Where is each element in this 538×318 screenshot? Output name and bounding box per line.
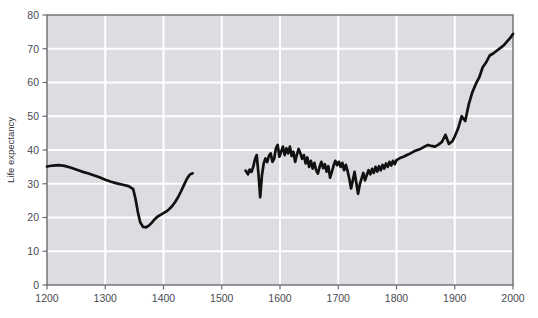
y-axis-title-group: Life expectancy: [5, 117, 16, 183]
y-tick-label-50: 50: [27, 110, 39, 122]
y-axis-title: Life expectancy: [5, 117, 16, 183]
y-axis-tick-labels: 01020304050607080: [27, 9, 39, 291]
x-tick-label-1900: 1900: [443, 292, 467, 304]
y-tick-label-0: 0: [33, 279, 39, 291]
x-tick-label-1200: 1200: [35, 292, 59, 304]
life-expectancy-chart: 01020304050607080 1200130014001500160017…: [0, 0, 538, 318]
x-axis-tick-labels: 120013001400150016001700180019002000: [35, 292, 525, 304]
x-tick-label-1400: 1400: [152, 292, 176, 304]
x-tick-label-1500: 1500: [210, 292, 234, 304]
y-tick-label-10: 10: [27, 245, 39, 257]
x-tick-label-2000: 2000: [501, 292, 525, 304]
y-tick-label-70: 70: [27, 43, 39, 55]
y-tick-label-60: 60: [27, 76, 39, 88]
x-tick-label-1300: 1300: [94, 292, 118, 304]
y-tick-label-40: 40: [27, 144, 39, 156]
y-tick-label-20: 20: [27, 211, 39, 223]
y-tick-label-30: 30: [27, 178, 39, 190]
x-tick-label-1800: 1800: [385, 292, 409, 304]
x-tick-label-1700: 1700: [327, 292, 351, 304]
x-tick-label-1600: 1600: [268, 292, 292, 304]
chart-canvas: 01020304050607080 1200130014001500160017…: [0, 0, 538, 318]
y-tick-label-80: 80: [27, 9, 39, 21]
